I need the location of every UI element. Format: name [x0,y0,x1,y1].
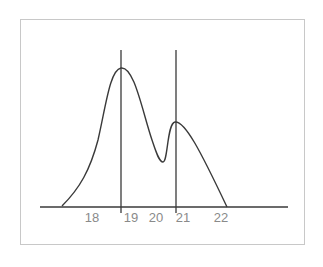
distribution-curve [62,68,227,207]
x-tick-label: 20 [149,210,163,225]
x-tick-label: 19 [124,210,138,225]
distribution-plot [0,0,323,267]
x-tick-label: 18 [85,210,99,225]
x-tick-label: 21 [176,210,190,225]
x-tick-label: 22 [214,210,228,225]
